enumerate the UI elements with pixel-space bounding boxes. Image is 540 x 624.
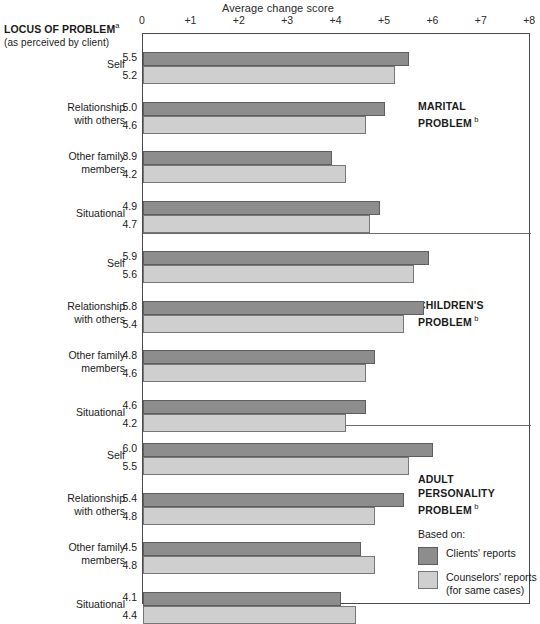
bar-counselors bbox=[143, 414, 346, 432]
panel-title-line2: PERSONALITY bbox=[418, 486, 495, 500]
category-label-line1: Situational bbox=[0, 207, 125, 220]
bar-counselors bbox=[143, 165, 346, 183]
x-tick-label-6: +6 bbox=[426, 14, 438, 26]
panel-title: CHILDREN'SPROBLEM b bbox=[418, 298, 484, 329]
category-label-line1: Other family bbox=[0, 349, 125, 362]
x-tick-label-8: +8 bbox=[523, 14, 535, 26]
bar-clients bbox=[143, 102, 385, 116]
category-label: Self bbox=[0, 449, 125, 462]
category-label: Other familymembers bbox=[0, 541, 125, 567]
bar-counselors bbox=[143, 315, 404, 333]
category-label: Relationshipwith others bbox=[0, 492, 125, 518]
category-label-line1: Relationship bbox=[0, 101, 125, 114]
panel-title-footnote-marker: b bbox=[472, 115, 479, 124]
panel-title-footnote-marker: b bbox=[472, 314, 479, 323]
category-label-line2: members bbox=[0, 163, 125, 176]
legend: Based on: Clients' reports Counselors' r… bbox=[418, 528, 537, 602]
bar-counselors bbox=[143, 215, 370, 233]
category-label-line2: members bbox=[0, 362, 125, 375]
bar-clients bbox=[143, 251, 429, 265]
legend-title: Based on: bbox=[418, 528, 537, 540]
category-label-line1: Other family bbox=[0, 541, 125, 554]
bar-counselors bbox=[143, 457, 409, 475]
panel-separator-1 bbox=[143, 233, 531, 234]
category-label-line1: Situational bbox=[0, 598, 125, 611]
category-label-line1: Situational bbox=[0, 406, 125, 419]
category-label-line1: Self bbox=[0, 449, 125, 462]
category-label: Situational bbox=[0, 598, 125, 611]
panel-title-line1: ADULT bbox=[418, 472, 495, 486]
panel-title-line1: MARITAL bbox=[418, 99, 479, 113]
category-label-line2: with others bbox=[0, 505, 125, 518]
locus-title-footnote-marker: a bbox=[115, 21, 119, 30]
bar-counselors bbox=[143, 507, 375, 525]
panel-title-line1: CHILDREN'S bbox=[418, 298, 484, 312]
category-label: Other familymembers bbox=[0, 150, 125, 176]
category-label: Situational bbox=[0, 207, 125, 220]
bar-clients bbox=[143, 400, 366, 414]
legend-swatch-clients-icon bbox=[418, 547, 438, 565]
legend-label-counselors-line2: (for same cases) bbox=[446, 584, 537, 597]
bar-clients bbox=[143, 52, 409, 66]
bar-clients bbox=[143, 542, 361, 556]
bar-clients bbox=[143, 493, 404, 507]
category-label-line1: Self bbox=[0, 58, 125, 71]
panel-title: ADULTPERSONALITYPROBLEM b bbox=[418, 472, 495, 517]
locus-of-problem-heading: LOCUS OF PROBLEMa (as perceived by clien… bbox=[4, 19, 144, 50]
category-label: Relationshipwith others bbox=[0, 101, 125, 127]
bar-counselors bbox=[143, 364, 366, 382]
x-tick-label-2: +2 bbox=[233, 14, 245, 26]
bar-clients bbox=[143, 443, 433, 457]
category-label: Self bbox=[0, 58, 125, 71]
bar-counselors bbox=[143, 556, 375, 574]
category-label-line1: Other family bbox=[0, 150, 125, 163]
axis-title: Average change score bbox=[222, 2, 334, 14]
legend-label-counselors: Counselors' reports (for same cases) bbox=[446, 571, 537, 596]
legend-item-counselors: Counselors' reports (for same cases) bbox=[418, 571, 537, 596]
bar-clients bbox=[143, 350, 375, 364]
axis-title-text: Average change score bbox=[222, 2, 334, 14]
category-label-line1: Relationship bbox=[0, 492, 125, 505]
panel-title-line2: PROBLEM b bbox=[418, 113, 479, 130]
panel-title-line2: PROBLEM b bbox=[418, 312, 484, 329]
bar-counselors bbox=[143, 66, 395, 84]
category-label: Situational bbox=[0, 406, 125, 419]
x-tick-label-5: +5 bbox=[378, 14, 390, 26]
x-tick-label-4: +4 bbox=[330, 14, 342, 26]
legend-label-clients: Clients' reports bbox=[446, 547, 516, 560]
bar-counselors bbox=[143, 265, 414, 283]
bar-clients bbox=[143, 301, 424, 315]
category-label: Relationshipwith others bbox=[0, 300, 125, 326]
locus-subtitle: (as perceived by client) bbox=[4, 36, 144, 50]
panel-title: MARITALPROBLEM b bbox=[418, 99, 479, 130]
locus-title: LOCUS OF PROBLEM bbox=[4, 23, 115, 35]
legend-item-clients: Clients' reports bbox=[418, 547, 537, 565]
category-label-line1: Self bbox=[0, 257, 125, 270]
category-label-line2: with others bbox=[0, 313, 125, 326]
x-tick-label-1: +1 bbox=[184, 14, 196, 26]
category-label-line2: members bbox=[0, 554, 125, 567]
legend-label-counselors-line1: Counselors' reports bbox=[446, 571, 537, 584]
category-label: Self bbox=[0, 257, 125, 270]
legend-swatch-counselors-icon bbox=[418, 571, 438, 589]
category-label-line2: with others bbox=[0, 114, 125, 127]
x-tick-label-7: +7 bbox=[475, 14, 487, 26]
panel-title-line3: PROBLEM b bbox=[418, 500, 495, 517]
x-tick-label-3: +3 bbox=[281, 14, 293, 26]
bar-clients bbox=[143, 592, 341, 606]
bar-counselors bbox=[143, 116, 366, 134]
category-label: Other familymembers bbox=[0, 349, 125, 375]
bar-clients bbox=[143, 151, 332, 165]
category-label-line1: Relationship bbox=[0, 300, 125, 313]
bar-counselors bbox=[143, 606, 356, 624]
bar-clients bbox=[143, 201, 380, 215]
x-tick-label-0: 0 bbox=[139, 14, 145, 26]
panel-title-footnote-marker: b bbox=[472, 502, 479, 511]
